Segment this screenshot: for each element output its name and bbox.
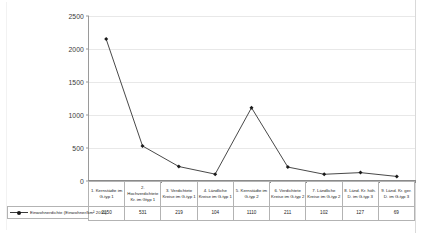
table-cell-value: 1110 (233, 207, 269, 221)
table-cell-category: 4. LändlicheKreise im G-typ 1 (197, 182, 233, 207)
table-cell-category: 8. Länd. Kr. höh.D. im G-typ 3 (342, 182, 378, 207)
legend-marker-icon (10, 210, 28, 216)
table-cell-category: 3. VerdichteteKreise im G-typ 1 (161, 182, 197, 207)
table-cell-category: 5. Kernstädte imG-typ 2 (233, 182, 269, 207)
data-point-marker (395, 174, 399, 178)
table-cell-value: 211 (270, 207, 306, 221)
category-label-line: D. im G-typ 3 (343, 194, 378, 200)
data-point-marker (141, 144, 145, 148)
table-cell-category: 7. LändlicheKreise im G-typ 2 (306, 182, 342, 207)
table-cell-value: 127 (342, 207, 378, 221)
category-label-line: Kreise im G-typ 2 (306, 194, 341, 200)
x-axis-tick-mark (415, 180, 416, 183)
data-point-marker (322, 172, 326, 176)
table-cell-category: 1. Kernstädte imG-typ 1 (89, 182, 125, 207)
table-cell-value: 219 (161, 207, 197, 221)
line-series-einwohnerdichte (88, 16, 415, 181)
data-point-marker (177, 165, 181, 169)
category-label-line: D. im G-typ 3 (379, 194, 414, 200)
data-point-marker (359, 171, 363, 175)
category-label-line: Kreise im G-typ 1 (198, 194, 233, 200)
table-cell-value: 104 (197, 207, 233, 221)
data-point-marker (213, 172, 217, 176)
data-point-marker (104, 37, 108, 41)
chart-container: 05001000150020002500 1. Kernstädte imG-t… (0, 0, 431, 233)
y-axis-tick-label: 0 (80, 178, 84, 185)
frame-border-left (6, 2, 7, 230)
plot-area: 05001000150020002500 (88, 16, 415, 181)
category-label-line: Kreise im G-typ 2 (270, 194, 305, 200)
y-axis-tick-label: 2500 (68, 13, 84, 20)
table-cell-value: 531 (125, 207, 161, 221)
category-label-line: Kreise im G-typ 1 (161, 194, 196, 200)
table-cell-value: 102 (306, 207, 342, 221)
table-row-values: 2150531219104111021110212769 (89, 207, 415, 221)
y-axis-tick-label: 2000 (68, 46, 84, 53)
table-cell-category: 9. Länd. Kr. ger.D. im G-typ 3 (378, 182, 414, 207)
category-label-line: G-typ 1 (89, 194, 124, 200)
y-axis-tick-label: 500 (72, 145, 84, 152)
y-axis-tick-label: 1500 (68, 79, 84, 86)
legend: Einwohnerdichte (Einwohner/km² 2011) (7, 206, 88, 219)
data-point-marker (286, 165, 290, 169)
table-cell-value: 69 (378, 207, 414, 221)
table-row-categories: 1. Kernstädte imG-typ 12.Hochverdichtete… (89, 182, 415, 207)
data-table: 1. Kernstädte imG-typ 12.Hochverdichtete… (88, 181, 415, 221)
table-cell-category: 2.HochverdichteteKr. im Gtyp 1 (125, 182, 161, 207)
y-axis-tick-label: 1000 (68, 112, 84, 119)
data-point-marker (250, 106, 254, 110)
frame-border-right (415, 0, 416, 233)
table-cell-category: 6. VerdichteteKreise im G-typ 2 (270, 182, 306, 207)
category-label-line: Kr. im Gtyp 1 (125, 197, 160, 203)
legend-label: Einwohnerdichte (Einwohner/km² 2011) (30, 210, 107, 215)
category-label-line: G-typ 2 (234, 194, 269, 200)
